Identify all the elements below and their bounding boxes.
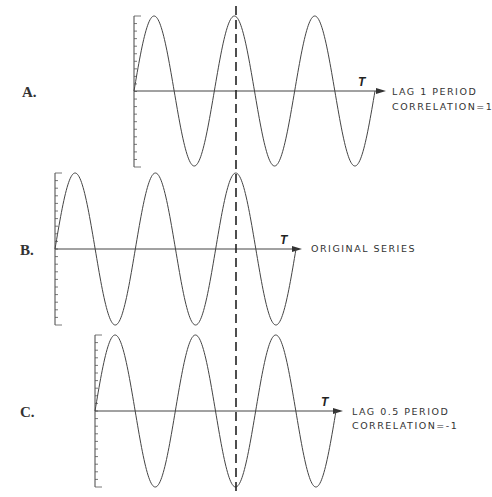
panel-b-t-label: T [280, 233, 289, 247]
panel-c-annotation-1: LAG 0.5 PERIOD [352, 406, 449, 417]
panel-b-label: B. [20, 242, 34, 258]
panel-b-arrow-icon [292, 246, 302, 252]
panel-a-label: A. [22, 84, 37, 100]
panel-a-t-label: T [358, 75, 367, 89]
panel-c-label: C. [20, 404, 35, 420]
panel-b: B. T ORIGINAL SERIES [20, 173, 416, 325]
panel-c-annotation-2: CORRELATION=-1 [352, 420, 458, 431]
autocorrelation-figure: A. T LAG 1 PERIOD CORRELATION=1 B. T ORI… [0, 0, 492, 497]
panel-c-t-label: T [321, 395, 330, 409]
panel-a-annotation-2: CORRELATION=1 [392, 101, 492, 112]
panel-a-arrow-icon [376, 88, 386, 94]
panel-a-annotation-1: LAG 1 PERIOD [392, 86, 477, 97]
panel-c-arrow-icon [333, 408, 343, 414]
panel-c: C. T LAG 0.5 PERIOD CORRELATION=-1 [20, 335, 458, 487]
panel-a: A. T LAG 1 PERIOD CORRELATION=1 [22, 16, 492, 167]
panel-b-annotation-1: ORIGINAL SERIES [311, 243, 416, 254]
